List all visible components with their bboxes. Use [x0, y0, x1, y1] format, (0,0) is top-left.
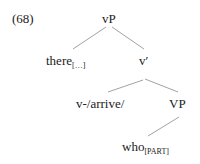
- node-v-arrive: v-/arrive/: [76, 97, 124, 110]
- node-there-feature: […]: [72, 61, 85, 70]
- node-there: there[…]: [46, 54, 85, 67]
- edge-VP-who: [148, 117, 179, 136]
- node-who: who[PART]: [122, 140, 169, 153]
- edge-vP-vbar: [112, 27, 144, 49]
- node-who-label: who: [122, 139, 144, 154]
- node-vbar: v′: [139, 54, 148, 67]
- node-VP: VP: [169, 97, 186, 110]
- edge-vbar-head: [108, 80, 143, 92]
- edge-vbar-VP: [145, 79, 178, 92]
- edge-vP-there: [73, 27, 106, 49]
- node-there-label: there: [46, 53, 72, 68]
- node-who-feature: [PART]: [144, 147, 169, 156]
- example-number: (68): [12, 12, 34, 25]
- node-vP: vP: [102, 12, 116, 25]
